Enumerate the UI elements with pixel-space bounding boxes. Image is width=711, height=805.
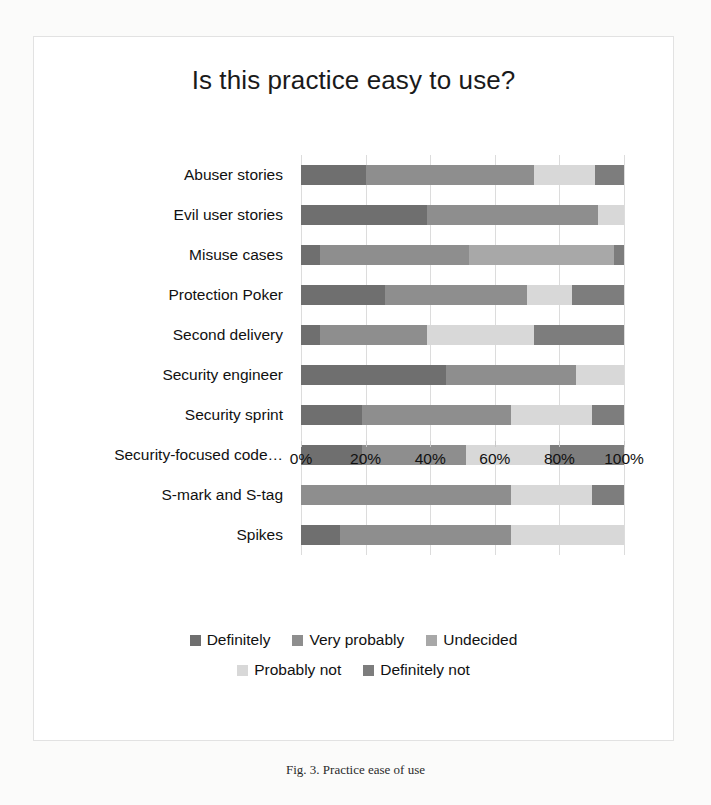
bar-segment <box>301 525 340 545</box>
bar-segment <box>301 485 511 505</box>
bar-segment <box>511 405 592 425</box>
figure-caption: Fig. 3. Practice ease of use <box>0 762 711 778</box>
x-tick-mark <box>301 441 302 447</box>
bar-segment <box>301 165 366 185</box>
category-label: S-mark and S-tag <box>162 487 283 503</box>
bar-segment <box>301 245 320 265</box>
legend-label: Definitely <box>207 631 271 649</box>
bar-segment <box>301 205 427 225</box>
bar-segment <box>427 325 534 345</box>
legend-label: Undecided <box>443 631 517 649</box>
bar-segment <box>301 325 320 345</box>
legend-swatch-icon <box>190 635 201 646</box>
bar-segment <box>534 325 624 345</box>
bar-segment <box>320 325 427 345</box>
bar-segment <box>362 405 511 425</box>
bar-row <box>301 165 624 185</box>
plot-wrapper: Abuser storiesEvil user storiesMisuse ca… <box>34 155 675 575</box>
category-label: Second delivery <box>173 327 283 343</box>
x-tick-label: 100% <box>604 450 644 468</box>
bar-segment <box>385 285 527 305</box>
y-axis-category-labels: Abuser storiesEvil user storiesMisuse ca… <box>34 155 292 555</box>
x-tick-label: 20% <box>350 450 381 468</box>
chart-title: Is this practice easy to use? <box>34 65 673 96</box>
bar-row <box>301 525 624 545</box>
x-axis: 0%20%40%60%80%100% <box>301 441 624 475</box>
bar-row <box>301 405 624 425</box>
bar-segment <box>340 525 511 545</box>
bar-row <box>301 205 624 225</box>
x-tick-mark <box>430 441 431 447</box>
x-tick-label: 40% <box>415 450 446 468</box>
x-tick-label: 60% <box>479 450 510 468</box>
legend-item[interactable]: Undecided <box>426 631 517 649</box>
bar-row <box>301 485 624 505</box>
bar-segment <box>427 205 598 225</box>
bar-segment <box>469 245 614 265</box>
legend-item[interactable]: Definitely not <box>363 661 470 679</box>
category-label: Protection Poker <box>168 287 283 303</box>
category-label: Security-focused code… <box>114 447 283 463</box>
legend-item[interactable]: Definitely <box>190 631 271 649</box>
bar-segment <box>320 245 469 265</box>
stacked-bars <box>301 155 624 555</box>
bar-segment <box>534 165 595 185</box>
bar-segment <box>301 365 446 385</box>
x-tick-mark <box>624 441 625 447</box>
legend-swatch-icon <box>363 665 374 676</box>
category-label: Evil user stories <box>174 207 283 223</box>
legend-row: DefinitelyVery probablyUndecided <box>190 631 518 649</box>
legend-swatch-icon <box>292 635 303 646</box>
legend-label: Probably not <box>254 661 341 679</box>
category-label: Abuser stories <box>184 167 283 183</box>
bar-segment <box>598 205 624 225</box>
bar-segment <box>576 365 624 385</box>
bar-segment <box>511 525 624 545</box>
x-tick-mark <box>366 441 367 447</box>
bar-segment <box>592 405 624 425</box>
bar-row <box>301 285 624 305</box>
bar-segment <box>366 165 534 185</box>
category-label: Misuse cases <box>189 247 283 263</box>
bar-segment <box>446 365 575 385</box>
figure-page: Is this practice easy to use? Abuser sto… <box>0 0 711 805</box>
legend-swatch-icon <box>237 665 248 676</box>
legend-row: Probably notDefinitely not <box>237 661 470 679</box>
bar-segment <box>301 285 385 305</box>
category-label: Security engineer <box>162 367 283 383</box>
legend-item[interactable]: Probably not <box>237 661 341 679</box>
legend-swatch-icon <box>426 635 437 646</box>
legend-label: Definitely not <box>380 661 470 679</box>
legend-label: Very probably <box>309 631 404 649</box>
x-tick-label: 80% <box>544 450 575 468</box>
bar-segment <box>614 245 624 265</box>
plot-area <box>301 155 624 555</box>
legend-item[interactable]: Very probably <box>292 631 404 649</box>
bar-segment <box>301 405 362 425</box>
bar-segment <box>595 165 624 185</box>
chart-container: Is this practice easy to use? Abuser sto… <box>33 36 674 741</box>
bar-segment <box>527 285 572 305</box>
bar-segment <box>511 485 592 505</box>
x-tick-mark <box>495 441 496 447</box>
category-label: Security sprint <box>185 407 283 423</box>
chart-legend: DefinitelyVery probablyUndecidedProbably… <box>34 631 673 679</box>
bar-segment <box>592 485 624 505</box>
bar-segment <box>572 285 624 305</box>
x-tick-mark <box>559 441 560 447</box>
x-tick-label: 0% <box>290 450 312 468</box>
bar-row <box>301 365 624 385</box>
bar-row <box>301 245 624 265</box>
bar-row <box>301 325 624 345</box>
category-label: Spikes <box>236 527 283 543</box>
gridline <box>624 155 625 555</box>
